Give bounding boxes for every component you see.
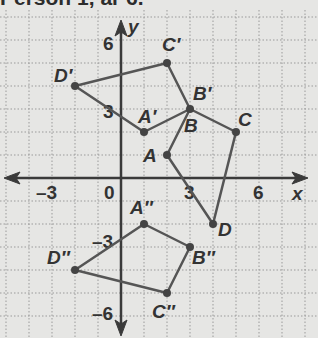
tick-y-neg3: –3 — [92, 231, 113, 252]
label-b-prime: B′ — [193, 83, 213, 104]
vertex-d — [209, 220, 217, 228]
tick-x-0: 0 — [104, 182, 115, 203]
coordinate-plane: –3 0 3 6 x 6 3 –3 –6 y A B C D A′ B′ C′ … — [0, 0, 318, 338]
tick-x-6: 6 — [253, 182, 264, 203]
label-c-double-prime: C″ — [152, 301, 176, 322]
label-d: D — [218, 219, 232, 240]
label-c: C — [238, 109, 252, 130]
vertex-d-double-prime — [71, 266, 79, 274]
label-b: B — [184, 115, 198, 136]
vertex-c-double-prime — [163, 289, 171, 297]
x-axis-label: x — [291, 183, 304, 204]
tick-x-neg3: –3 — [36, 182, 57, 203]
label-d-double-prime: D″ — [47, 247, 71, 268]
vertex-c-prime — [163, 59, 171, 67]
label-a-double-prime: A″ — [129, 197, 154, 218]
y-axis-label: y — [127, 16, 140, 37]
axes — [4, 20, 308, 336]
label-b-double-prime: B″ — [192, 247, 216, 268]
label-a-prime: A′ — [137, 106, 158, 127]
tick-y-neg6: –6 — [92, 303, 113, 324]
label-c-prime: C′ — [162, 34, 182, 55]
vertex-a-prime — [140, 128, 148, 136]
tick-y-6: 6 — [103, 33, 114, 54]
vertex-a-double-prime — [140, 220, 148, 228]
label-a: A — [142, 145, 157, 166]
grid — [0, 10, 318, 338]
vertex-b — [186, 105, 194, 113]
polygon-abcd — [167, 109, 236, 224]
label-d-prime: D′ — [54, 65, 74, 86]
vertex-a — [163, 151, 171, 159]
polygon-abcd-prime — [75, 63, 190, 132]
